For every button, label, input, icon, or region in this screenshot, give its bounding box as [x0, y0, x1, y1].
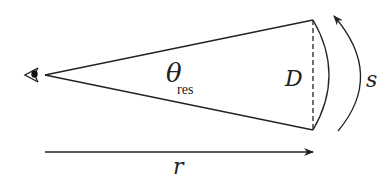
diameter-label: D — [284, 66, 303, 91]
arc-length-arrow — [334, 16, 361, 131]
eye-icon — [25, 68, 38, 82]
distance-label: r — [173, 154, 185, 179]
arc-length-label: s — [366, 67, 377, 92]
cone-end-arc — [313, 20, 329, 130]
theta-subscript: res — [177, 82, 193, 97]
angular-resolution-diagram: θ res D s r — [0, 0, 388, 180]
